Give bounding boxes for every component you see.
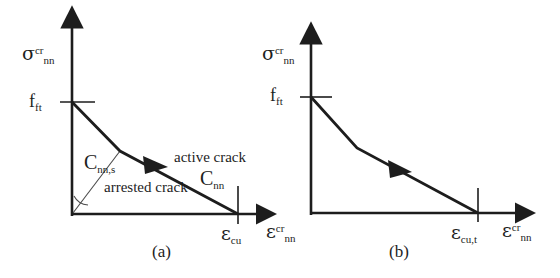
epsilon-subscript: nn xyxy=(520,231,531,243)
panel-b-caption: (b) xyxy=(389,243,409,260)
panel-a-y-axis-label: σcrnn xyxy=(22,44,55,66)
sigma-subscript: nn xyxy=(44,54,55,66)
panel-a-x-tick-label: εcu xyxy=(221,224,241,246)
epsilon-subscript: cu xyxy=(231,234,241,246)
panel-b-x-tick-label: εcu,t xyxy=(451,223,477,245)
panel-a-caption: (a) xyxy=(152,243,171,260)
sigma-symbol: σ xyxy=(262,42,275,64)
epsilon-symbol: ε xyxy=(451,221,461,243)
epsilon-symbol: ε xyxy=(266,220,276,242)
epsilon-symbol: ε xyxy=(502,219,512,241)
panel-b-y-tick-label: fft xyxy=(270,86,283,107)
sigma-symbol: σ xyxy=(22,42,35,64)
c-subscript: nn xyxy=(213,179,224,191)
c-subscript: nn,s xyxy=(97,163,115,175)
figure-container: σcrnn fft Cnn,s Cnn active crack arreste… xyxy=(0,0,560,278)
panel-a-x-axis-label: εcrnn xyxy=(266,222,295,244)
sigma-superscript: cr xyxy=(275,44,284,56)
f-subscript: ft xyxy=(35,101,42,113)
panel-a-angle-arc xyxy=(74,196,88,205)
panel-a-tangent-modulus-label: Cnn xyxy=(200,168,224,191)
panel-a-arrested-crack-label: arrested crack xyxy=(104,180,188,195)
epsilon-subscript: cu,t xyxy=(461,233,477,245)
sigma-subscript: nn xyxy=(284,54,295,66)
panel-a-y-tick-label: fft xyxy=(29,92,42,113)
panel-b-graph xyxy=(300,42,517,222)
sigma-superscript: cr xyxy=(35,44,44,56)
epsilon-subscript: nn xyxy=(284,232,295,244)
f-subscript: ft xyxy=(276,95,283,107)
epsilon-symbol: ε xyxy=(221,222,231,244)
panel-a-active-crack-label: active crack xyxy=(174,150,246,165)
panel-b-y-axis-label: σcrnn xyxy=(262,44,295,66)
panel-b-x-axis-label: εcrnn xyxy=(502,221,531,243)
panel-a-secant-modulus-label: Cnn,s xyxy=(84,152,115,175)
c-symbol: C xyxy=(200,167,213,189)
panel-b-softening-curve xyxy=(311,97,478,213)
c-symbol: C xyxy=(84,151,97,173)
